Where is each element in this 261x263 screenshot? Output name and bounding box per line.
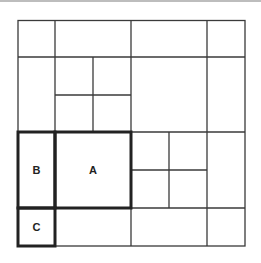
label-c: C	[33, 221, 41, 233]
label-b: B	[33, 164, 41, 176]
subdivided-square-diagram: A B C	[0, 0, 261, 263]
label-a: A	[89, 164, 97, 176]
